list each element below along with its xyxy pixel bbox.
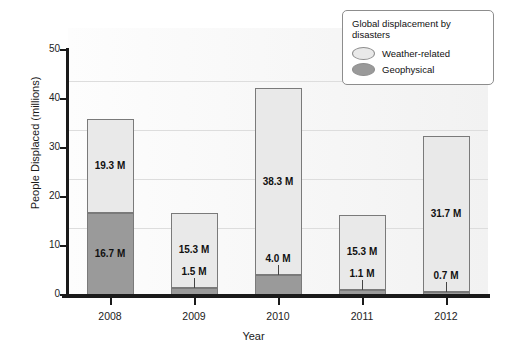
x-tick-label-2008: 2008 <box>80 310 140 322</box>
stacked-bar-chart: 19.3 M16.7 M15.3 M1.5 M38.3 M4.0 M15.3 M… <box>0 0 507 353</box>
y-tick-label-0: 0 <box>36 289 60 299</box>
legend-swatch-geophysical-icon <box>352 63 375 76</box>
y-tick-10 <box>60 245 68 247</box>
y-axis-line <box>66 48 69 297</box>
bar-label-weather-related-2011: 15.3 M <box>339 246 386 257</box>
y-tick-label-0-wrap: 0 <box>28 289 60 299</box>
x-tick-2011 <box>362 298 364 305</box>
bar-group-2009[interactable]: 15.3 M1.5 M <box>171 213 218 295</box>
legend-label-weather-related: Weather-related <box>382 48 450 59</box>
bar-group-2011[interactable]: 15.3 M1.1 M <box>339 215 386 295</box>
x-tick-label-2012: 2012 <box>416 310 476 322</box>
x-tick-label-2009: 2009 <box>164 310 224 322</box>
bar-group-2010[interactable]: 38.3 M4.0 M <box>255 88 302 295</box>
bar-segment-geophysical-2010[interactable] <box>255 275 302 295</box>
bar-label-leader-2010 <box>278 265 279 275</box>
bar-label-weather-related-2012: 31.7 M <box>423 208 470 219</box>
y-tick-0 <box>60 294 68 296</box>
y-axis-title: People Displaced (millions) <box>29 28 41 258</box>
chart-legend: Global displacement by disasters Weather… <box>342 10 494 85</box>
bar-label-weather-related-2010: 38.3 M <box>255 176 302 187</box>
x-tick-2008 <box>110 298 112 305</box>
bar-label-geophysical-2012: 0.7 M <box>411 270 481 281</box>
bar-label-leader-2011 <box>362 280 363 290</box>
legend-label-geophysical: Geophysical <box>382 64 434 75</box>
bar-label-weather-related-2008: 19.3 M <box>87 160 134 171</box>
bar-label-leader-2009 <box>194 278 195 288</box>
y-tick-30 <box>60 147 68 149</box>
bar-label-geophysical-2009: 1.5 M <box>159 266 229 277</box>
bar-group-2012[interactable]: 31.7 M0.7 M <box>423 136 470 295</box>
x-tick-label-2010: 2010 <box>248 310 308 322</box>
x-tick-2012 <box>446 298 448 305</box>
y-tick-50 <box>60 49 68 51</box>
y-tick-20 <box>60 196 68 198</box>
legend-swatch-weather-related-icon <box>352 47 375 60</box>
legend-item-geophysical[interactable]: Geophysical <box>352 63 485 76</box>
bar-group-2008[interactable]: 19.3 M16.7 M <box>87 119 134 295</box>
legend-item-weather-related[interactable]: Weather-related <box>352 47 485 60</box>
x-tick-2009 <box>194 298 196 305</box>
bar-label-geophysical-2011: 1.1 M <box>327 268 397 279</box>
bar-label-leader-2012 <box>446 282 447 292</box>
x-axis-line <box>62 294 490 298</box>
legend-title: Global displacement by disasters <box>352 18 485 40</box>
bar-label-geophysical-2008: 16.7 M <box>87 248 134 259</box>
bar-label-geophysical-2010: 4.0 M <box>243 253 313 264</box>
x-axis-title: Year <box>0 330 507 342</box>
bar-label-weather-related-2009: 15.3 M <box>171 244 218 255</box>
y-tick-40 <box>60 98 68 100</box>
x-tick-2010 <box>278 298 280 305</box>
x-tick-label-2011: 2011 <box>332 310 392 322</box>
